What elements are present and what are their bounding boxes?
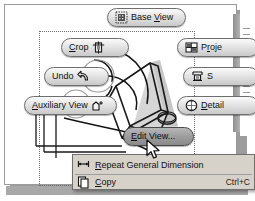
ruler-tick	[243, 34, 250, 35]
button-label: Crop	[69, 43, 89, 52]
button-undo[interactable]: Undo	[44, 67, 109, 86]
menu-item-copy[interactable]: Copy Ctrl+C	[73, 175, 254, 189]
projected-view-icon	[185, 41, 198, 54]
auxiliary-view-icon	[91, 99, 104, 112]
ruler-tick	[243, 86, 250, 87]
menu-item-label: Repeat General Dimension	[95, 160, 250, 170]
button-base-view[interactable]: Base View	[107, 8, 186, 27]
button-crop[interactable]: Crop	[61, 38, 129, 57]
button-label: Undo	[52, 72, 74, 81]
button-label: Base View	[131, 13, 173, 22]
ruler-tick	[243, 92, 250, 93]
button-section-view[interactable]: S	[183, 67, 255, 86]
menu-item-repeat-general-dimension[interactable]: Repeat General Dimension	[73, 155, 254, 174]
button-detail-view[interactable]: Detail	[177, 96, 255, 115]
section-view-icon	[191, 70, 204, 83]
menu-item-label: Copy	[95, 177, 226, 187]
detail-view-icon	[185, 99, 198, 112]
button-label: Auxiliary View	[32, 101, 88, 110]
copy-icon	[77, 176, 90, 189]
dimension-icon	[77, 158, 90, 171]
screenshot-root: Base View Crop Undo Auxiliary View Edit …	[0, 0, 255, 201]
base-view-icon	[115, 11, 128, 24]
button-label: Detail	[201, 101, 224, 110]
button-label: S	[207, 72, 213, 81]
crop-icon	[92, 41, 105, 54]
undo-arrow-icon	[77, 70, 90, 83]
button-projected-view[interactable]: Proje	[177, 38, 255, 57]
context-menu: Repeat General Dimension Copy Ctrl+C	[72, 154, 255, 190]
ruler-tick	[243, 28, 250, 29]
menu-item-shortcut: Ctrl+C	[226, 177, 250, 187]
button-auxiliary-view[interactable]: Auxiliary View	[24, 96, 117, 115]
button-label: Proje	[201, 43, 222, 52]
mouse-cursor	[146, 139, 162, 161]
